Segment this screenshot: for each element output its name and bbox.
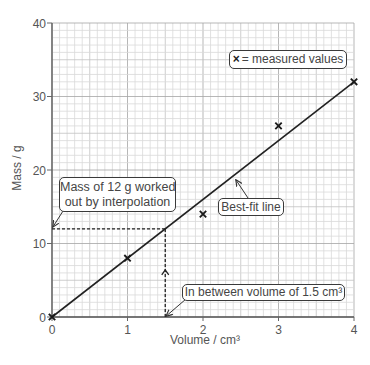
x-tick-label: 4: [351, 323, 358, 337]
volume-annotation: In between volume of 1.5 cm³: [182, 284, 345, 301]
y-tick-label: 0: [39, 311, 46, 325]
y-axis-title: Mass / g: [10, 138, 24, 198]
volume-annotation-arrow: [166, 299, 186, 316]
interpolation-annotation: Mass of 12 g worked out by interpolation: [59, 177, 176, 212]
cross-marker-icon: ×: [233, 52, 240, 66]
y-tick-label: 10: [33, 237, 47, 251]
y-tick-label: 30: [33, 90, 47, 104]
legend-text: = measured values: [242, 52, 344, 66]
y-tick-label: 40: [33, 17, 47, 31]
x-tick-label: 0: [49, 323, 56, 337]
mass-volume-chart: 01234010203040 Volume / cm³ Mass / g ×= …: [0, 0, 370, 365]
best-fit-annotation-arrow: [236, 180, 248, 198]
best-fit-annotation: Best-fit line: [218, 198, 284, 216]
interpolation-annotation-arrow: [53, 211, 63, 227]
interpolation-annotation-line-2: out by interpolation: [60, 195, 175, 210]
x-tick-label: 3: [275, 323, 282, 337]
y-tick-label: 20: [33, 164, 47, 178]
interpolation-annotation-line-1: Mass of 12 g worked: [60, 180, 175, 195]
x-axis-title: Volume / cm³: [160, 333, 250, 347]
legend: ×= measured values: [229, 50, 347, 69]
x-tick-label: 1: [124, 323, 131, 337]
